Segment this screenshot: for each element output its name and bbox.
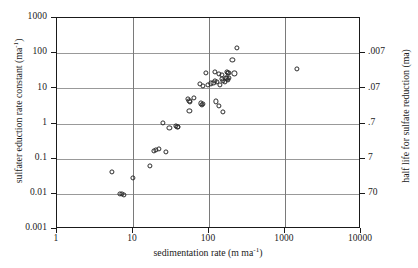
y-axis-left-title: sulfater eduction rate constant (ma-1)	[14, 11, 24, 211]
y-axis-left-tick-label: 10	[37, 83, 47, 93]
y-axis-left-title-text: sulfater eduction rate constant (ma	[13, 48, 24, 183]
y-axis-right-title: half life for sulfate reduction (ma)	[401, 16, 411, 216]
plot-area	[56, 17, 360, 228]
gridline-vertical	[133, 18, 134, 227]
x-axis-tick-label: 100	[201, 234, 216, 244]
y-axis-right-tick-label: 7	[368, 153, 373, 163]
y-axis-right-tick	[360, 87, 365, 88]
x-axis-tick-label: 1000	[274, 234, 293, 244]
y-axis-right-tick	[360, 193, 365, 194]
y-axis-left-tick-label: 1	[42, 118, 47, 128]
y-axis-left-tick	[51, 17, 56, 18]
gridline-horizontal	[57, 88, 359, 89]
x-axis-title-text: sedimentation rate (m ma	[154, 247, 254, 258]
x-axis-title: sedimentation rate (m ma-1)	[56, 248, 360, 258]
x-axis-tick-label: 1	[54, 234, 59, 244]
y-axis-left-tick	[51, 52, 56, 53]
y-axis-left-tick	[51, 87, 56, 88]
y-axis-right-tick	[360, 123, 365, 124]
gridline-horizontal	[57, 124, 359, 125]
y-axis-left-title-exponent: -1	[12, 42, 20, 48]
gridline-vertical	[285, 18, 286, 227]
y-axis-left-tick	[51, 123, 56, 124]
y-axis-left-tick	[51, 158, 56, 159]
y-axis-left-tick-label: 0.01	[30, 188, 47, 198]
y-axis-left-tick-label: 0.001	[25, 223, 47, 233]
x-axis-title-tail: )	[259, 247, 262, 258]
gridline-horizontal	[57, 194, 359, 195]
y-axis-right-tick	[360, 52, 365, 53]
y-axis-left-tick-label: 0.1	[35, 153, 47, 163]
gridline-horizontal	[57, 159, 359, 160]
y-axis-right-tick-label: .7	[368, 118, 375, 128]
y-axis-right-tick-label: .07	[368, 83, 380, 93]
scatter-chart-figure: 0.0010.010.11101001000.007.07.7770110100…	[0, 0, 418, 268]
gridline-vertical	[209, 18, 210, 227]
x-axis-tick-label: 10000	[348, 234, 372, 244]
y-axis-left-title-tail: )	[13, 39, 24, 42]
y-axis-left-tick-label: 1000	[28, 12, 47, 22]
y-axis-right-tick	[360, 158, 365, 159]
y-axis-left-tick	[51, 193, 56, 194]
y-axis-right-tick-label: 70	[368, 188, 378, 198]
gridline-horizontal	[57, 53, 359, 54]
x-axis-tick-label: 10	[127, 234, 137, 244]
y-axis-left-tick-label: 100	[32, 47, 47, 57]
y-axis-right-tick-label: .007	[368, 47, 385, 57]
